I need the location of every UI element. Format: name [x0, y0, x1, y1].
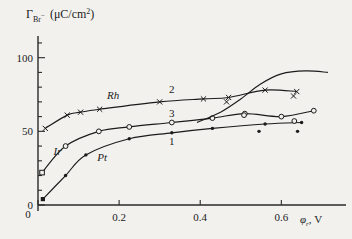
- data-point-pt: [263, 122, 266, 125]
- annotation-2: 2: [169, 83, 175, 95]
- data-point-ir: [169, 120, 174, 125]
- data-point-ir: [311, 108, 316, 113]
- data-point-pt: [41, 197, 45, 201]
- curve-ir: [42, 111, 314, 173]
- scatter-point: [242, 113, 247, 118]
- x-tick-label: 0.2: [112, 211, 126, 223]
- annotation-ir: Ir: [52, 145, 62, 157]
- data-point-ir: [40, 170, 45, 175]
- x-axis-title: φr, V: [300, 213, 322, 228]
- x-tick-label: 0.6: [274, 211, 288, 223]
- x-tick-label: 0.4: [193, 211, 207, 223]
- y-tick-label: 50: [22, 125, 34, 137]
- data-point-pt: [64, 174, 67, 177]
- y-axis-title: ΓBr− (μC/cm2): [26, 7, 94, 24]
- scatter-point: [292, 119, 297, 124]
- scatter-point: [257, 130, 260, 133]
- annotation-rh: Rh: [106, 89, 120, 101]
- origin-label: 0: [25, 208, 31, 220]
- data-point-pt: [211, 127, 214, 130]
- annotation-pt: Pt: [96, 151, 108, 163]
- y-tick-label: 100: [17, 52, 34, 64]
- chart-canvas: 0501000.20.40.60Rh231IrPtΓBr− (μC/cm2)φr…: [0, 0, 352, 239]
- data-point-pt: [300, 121, 303, 124]
- data-point-ir: [279, 114, 284, 119]
- data-point-ir: [96, 129, 101, 134]
- annotation-1: 1: [169, 135, 175, 147]
- data-point-pt: [128, 137, 131, 140]
- data-point-ir: [127, 125, 132, 130]
- scatter-point: [296, 130, 299, 133]
- data-point-ir: [63, 144, 68, 149]
- data-point-pt: [84, 153, 87, 156]
- annotation-3: 3: [169, 107, 175, 119]
